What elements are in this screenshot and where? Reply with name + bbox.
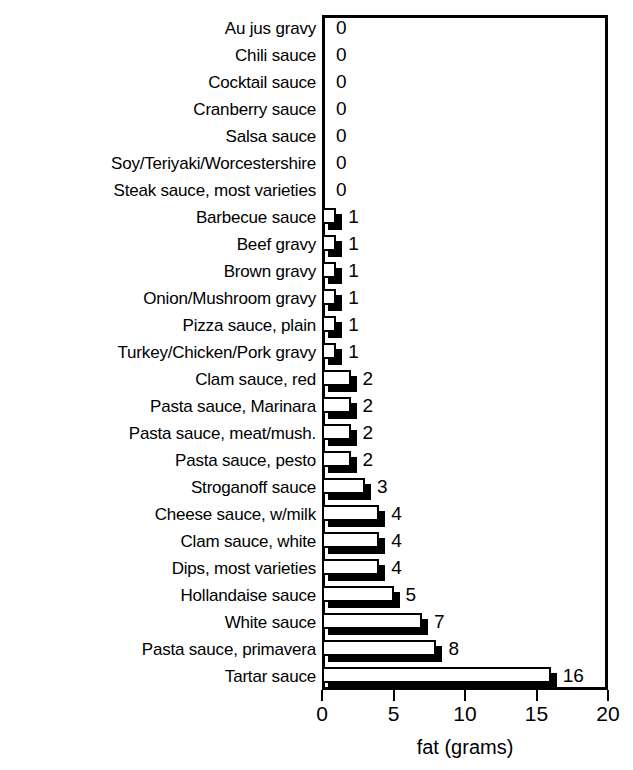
category-label: Au jus gravy: [0, 20, 316, 37]
category-label: Cranberry sauce: [0, 101, 316, 118]
category-label: White sauce: [0, 614, 316, 631]
category-label: Pasta sauce, primavera: [0, 641, 316, 658]
category-label: Onion/Mushroom gravy: [0, 290, 316, 307]
category-label: Beef gravy: [0, 236, 316, 253]
x-axis-tick: [464, 690, 466, 701]
x-axis-tick: [536, 690, 538, 701]
x-axis-tick-label: 5: [388, 703, 400, 724]
x-axis-tick: [321, 690, 323, 701]
category-label: Brown gravy: [0, 263, 316, 280]
category-label: Stroganoff sauce: [0, 479, 316, 496]
category-label: Barbecue sauce: [0, 209, 316, 226]
category-label: Clam sauce, white: [0, 533, 316, 550]
category-label: Soy/Teriyaki/Worcestershire: [0, 155, 316, 172]
plot-frame: [322, 15, 608, 690]
x-axis-tick-label: 20: [596, 703, 619, 724]
category-label: Salsa sauce: [0, 128, 316, 145]
x-axis-tick-label: 15: [525, 703, 548, 724]
category-axis-labels: Au jus gravyChili sauceCocktail sauceCra…: [0, 0, 316, 690]
category-label: Tartar sauce: [0, 668, 316, 685]
x-axis-title: fat (grams): [322, 737, 608, 757]
chart-page: Au jus gravyChili sauceCocktail sauceCra…: [0, 0, 633, 770]
x-axis-tick: [607, 690, 609, 701]
category-label: Pizza sauce, plain: [0, 317, 316, 334]
category-label: Dips, most varieties: [0, 560, 316, 577]
category-label: Pasta sauce, pesto: [0, 452, 316, 469]
category-label: Steak sauce, most varieties: [0, 182, 316, 199]
x-axis: 05101520: [322, 690, 608, 691]
category-label: Cheese sauce, w/milk: [0, 506, 316, 523]
category-label: Turkey/Chicken/Pork gravy: [0, 344, 316, 361]
x-axis-tick: [393, 690, 395, 701]
category-label: Chili sauce: [0, 47, 316, 64]
x-axis-tick-label: 0: [316, 703, 328, 724]
category-label: Pasta sauce, Marinara: [0, 398, 316, 415]
x-axis-tick-label: 10: [453, 703, 476, 724]
category-label: Cocktail sauce: [0, 74, 316, 91]
category-label: Pasta sauce, meat/mush.: [0, 425, 316, 442]
category-label: Hollandaise sauce: [0, 587, 316, 604]
category-label: Clam sauce, red: [0, 371, 316, 388]
